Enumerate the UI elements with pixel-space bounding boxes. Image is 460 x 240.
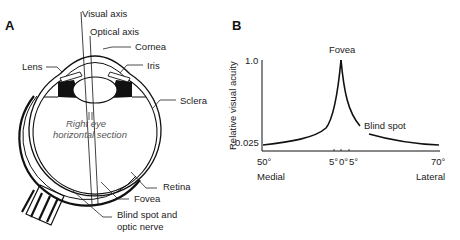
x-tick-5-right: 5° [349, 156, 358, 167]
annotation-blind-spot: Blind spot [364, 120, 406, 131]
label-sclera: Sclera [180, 95, 208, 106]
label-lens: Lens [22, 61, 43, 72]
panel-b: B Relative visual acuity 1.0 0.025 Fovea… [227, 18, 446, 182]
lens [73, 77, 117, 103]
label-retina: Retina [163, 181, 191, 192]
x-direction-medial: Medial [257, 171, 285, 182]
acuity-curve-right-inner [341, 60, 360, 126]
x-tick-50: 50° [257, 156, 272, 167]
label-optical-axis: Optical axis [90, 26, 139, 37]
label-horizontal-section: horizontal section [53, 129, 127, 140]
x-direction-lateral: Lateral [416, 171, 445, 182]
y-tick-max: 1.0 [245, 55, 258, 66]
label-iris: Iris [147, 60, 160, 71]
acuity-curve-left [263, 60, 341, 145]
label-fovea: Fovea [134, 193, 161, 204]
x-tick-5-left: 5° [329, 156, 338, 167]
acuity-curve-right-outer [369, 134, 439, 145]
panel-b-label: B [232, 18, 241, 33]
label-blind-spot-1: Blind spot and [117, 209, 177, 220]
panel-a-label: A [5, 18, 15, 33]
label-visual-axis: Visual axis [82, 8, 127, 19]
optic-nerve [22, 185, 64, 225]
x-tick-0: 0° [339, 156, 348, 167]
y-tick-min: 0.025 [235, 137, 259, 148]
label-cornea: Cornea [135, 41, 167, 52]
label-blind-spot-2: optic nerve [117, 221, 163, 232]
panel-a: A [5, 8, 208, 232]
label-right-eye: Right eye [66, 118, 106, 129]
figure: A [0, 0, 460, 240]
annotation-fovea: Fovea [329, 44, 356, 55]
x-tick-70: 70° [431, 156, 446, 167]
